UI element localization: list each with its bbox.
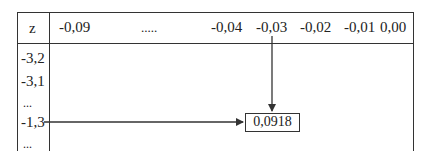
lookup-arrows bbox=[0, 0, 429, 158]
result-value-box: 0,0918 bbox=[245, 113, 300, 132]
